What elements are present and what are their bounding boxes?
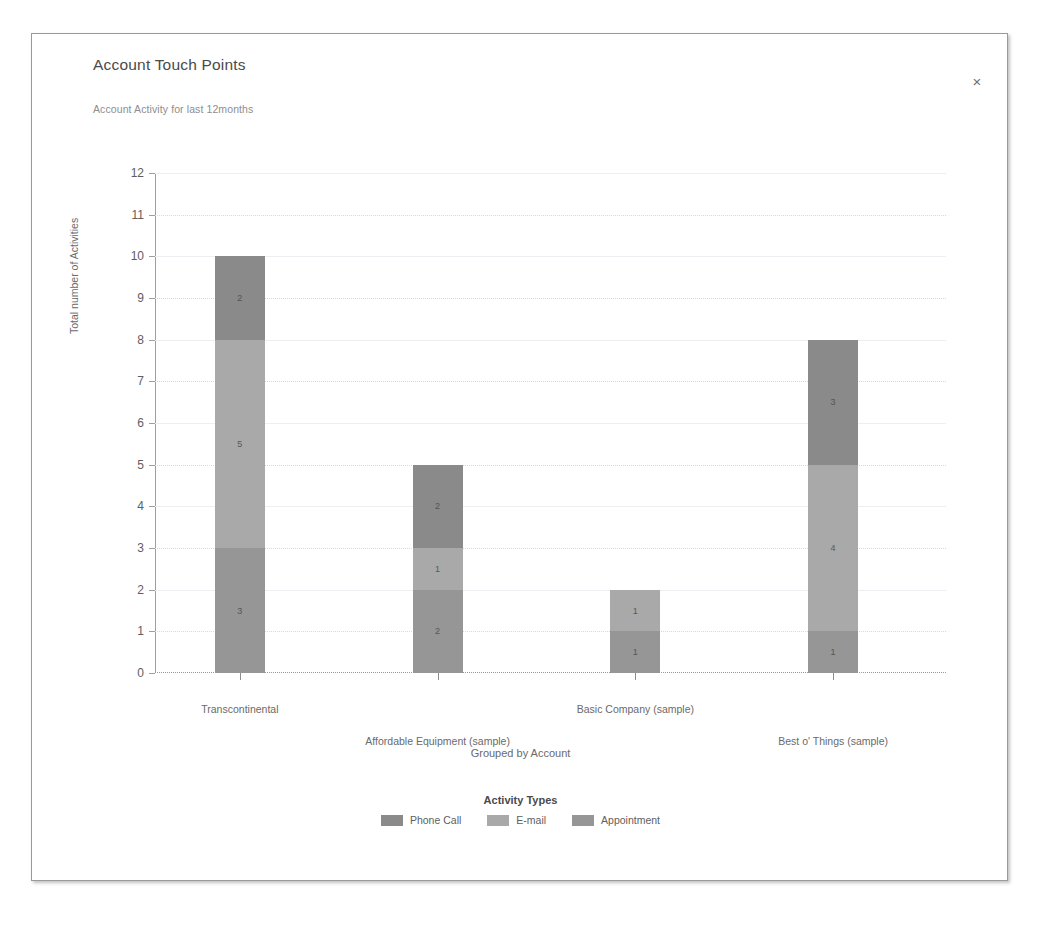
y-axis-tick xyxy=(149,256,155,257)
bar-segment-value: 2 xyxy=(435,501,440,511)
y-axis-tick-label: 1 xyxy=(137,624,144,638)
bar-segment-value: 1 xyxy=(831,647,836,657)
bar-segment[interactable]: 3 xyxy=(215,548,265,673)
y-axis-tick xyxy=(149,298,155,299)
y-axis-tick-label: 5 xyxy=(137,458,144,472)
chart-canvas: Total number of Activities 0123456789101… xyxy=(32,34,1009,882)
bar-segment[interactable]: 4 xyxy=(808,465,858,632)
screenshot-root: Account Touch Points × Account Activity … xyxy=(0,0,1041,951)
bar-segment[interactable]: 1 xyxy=(610,631,660,673)
x-axis-title: Grouped by Account xyxy=(32,747,1009,759)
bar-segment[interactable]: 2 xyxy=(215,256,265,339)
y-axis-tick-label: 6 xyxy=(137,416,144,430)
chart-dialog: Account Touch Points × Account Activity … xyxy=(31,33,1008,881)
bar-segment[interactable]: 5 xyxy=(215,340,265,548)
x-axis-tick xyxy=(240,673,241,680)
y-axis-tick-label: 12 xyxy=(131,166,144,180)
x-axis-category-label: Affordable Equipment (sample) xyxy=(365,735,510,747)
y-axis-tick-label: 9 xyxy=(137,291,144,305)
legend-label: Phone Call xyxy=(410,814,461,826)
y-axis-tick-label: 10 xyxy=(131,249,144,263)
x-axis-tick xyxy=(833,673,834,680)
bar-column[interactable]: 352 xyxy=(215,256,265,673)
chart-dialog-body: Account Touch Points × Account Activity … xyxy=(32,34,1007,880)
bar-segment-value: 3 xyxy=(237,606,242,616)
y-axis-tick xyxy=(149,423,155,424)
y-axis-tick xyxy=(149,465,155,466)
y-axis-tick xyxy=(149,590,155,591)
y-axis-title: Total number of Activities xyxy=(68,218,80,334)
y-axis-tick xyxy=(149,215,155,216)
grid-line xyxy=(155,215,946,216)
bar-segment-value: 1 xyxy=(633,647,638,657)
bar-segment[interactable]: 1 xyxy=(413,548,463,590)
bar-segment[interactable]: 3 xyxy=(808,340,858,465)
bar-segment[interactable]: 2 xyxy=(413,590,463,673)
legend-item-list: Phone CallE-mailAppointment xyxy=(32,814,1009,826)
y-axis-tick xyxy=(149,506,155,507)
x-axis-tick xyxy=(438,673,439,680)
y-axis-tick-label: 7 xyxy=(137,374,144,388)
y-axis-tick xyxy=(149,631,155,632)
y-axis-tick-label: 4 xyxy=(137,499,144,513)
legend-title: Activity Types xyxy=(32,794,1009,806)
grid-line xyxy=(155,298,946,299)
x-axis-category-label: Transcontinental xyxy=(201,703,278,715)
bar-column[interactable]: 212 xyxy=(413,465,463,673)
bar-segment-value: 4 xyxy=(831,543,836,553)
bar-segment-value: 5 xyxy=(237,439,242,449)
bar-segment[interactable]: 1 xyxy=(610,590,660,632)
bar-column[interactable]: 143 xyxy=(808,340,858,673)
y-axis-tick xyxy=(149,548,155,549)
bar-segment-value: 3 xyxy=(831,397,836,407)
chart-legend: Activity Types Phone CallE-mailAppointme… xyxy=(32,794,1009,826)
legend-label: E-mail xyxy=(516,814,546,826)
y-axis-tick xyxy=(149,340,155,341)
y-axis-tick xyxy=(149,381,155,382)
plot-area: 0123456789101112352Transcontinental212Af… xyxy=(155,173,946,673)
bar-segment-value: 1 xyxy=(435,564,440,574)
legend-swatch xyxy=(487,815,509,826)
x-axis-category-label: Basic Company (sample) xyxy=(577,703,694,715)
y-axis-tick-label: 0 xyxy=(137,666,144,680)
legend-label: Appointment xyxy=(601,814,660,826)
x-axis-category-label: Best o' Things (sample) xyxy=(778,735,888,747)
bar-segment-value: 2 xyxy=(435,626,440,636)
bar-segment[interactable]: 1 xyxy=(808,631,858,673)
legend-item[interactable]: E-mail xyxy=(487,814,546,826)
grid-line xyxy=(155,256,946,257)
bar-column[interactable]: 11 xyxy=(610,590,660,673)
bar-segment[interactable]: 2 xyxy=(413,465,463,548)
y-axis-tick xyxy=(149,673,155,674)
x-axis-tick xyxy=(635,673,636,680)
legend-item[interactable]: Phone Call xyxy=(381,814,461,826)
legend-item[interactable]: Appointment xyxy=(572,814,660,826)
grid-line xyxy=(155,173,946,174)
bar-segment-value: 1 xyxy=(633,606,638,616)
legend-swatch xyxy=(381,815,403,826)
y-axis-tick-label: 2 xyxy=(137,583,144,597)
y-axis-tick-label: 11 xyxy=(132,208,144,222)
y-axis-tick-label: 8 xyxy=(137,333,144,347)
y-axis-tick xyxy=(149,173,155,174)
bar-segment-value: 2 xyxy=(237,293,242,303)
legend-swatch xyxy=(572,815,594,826)
y-axis-tick-label: 3 xyxy=(137,541,144,555)
